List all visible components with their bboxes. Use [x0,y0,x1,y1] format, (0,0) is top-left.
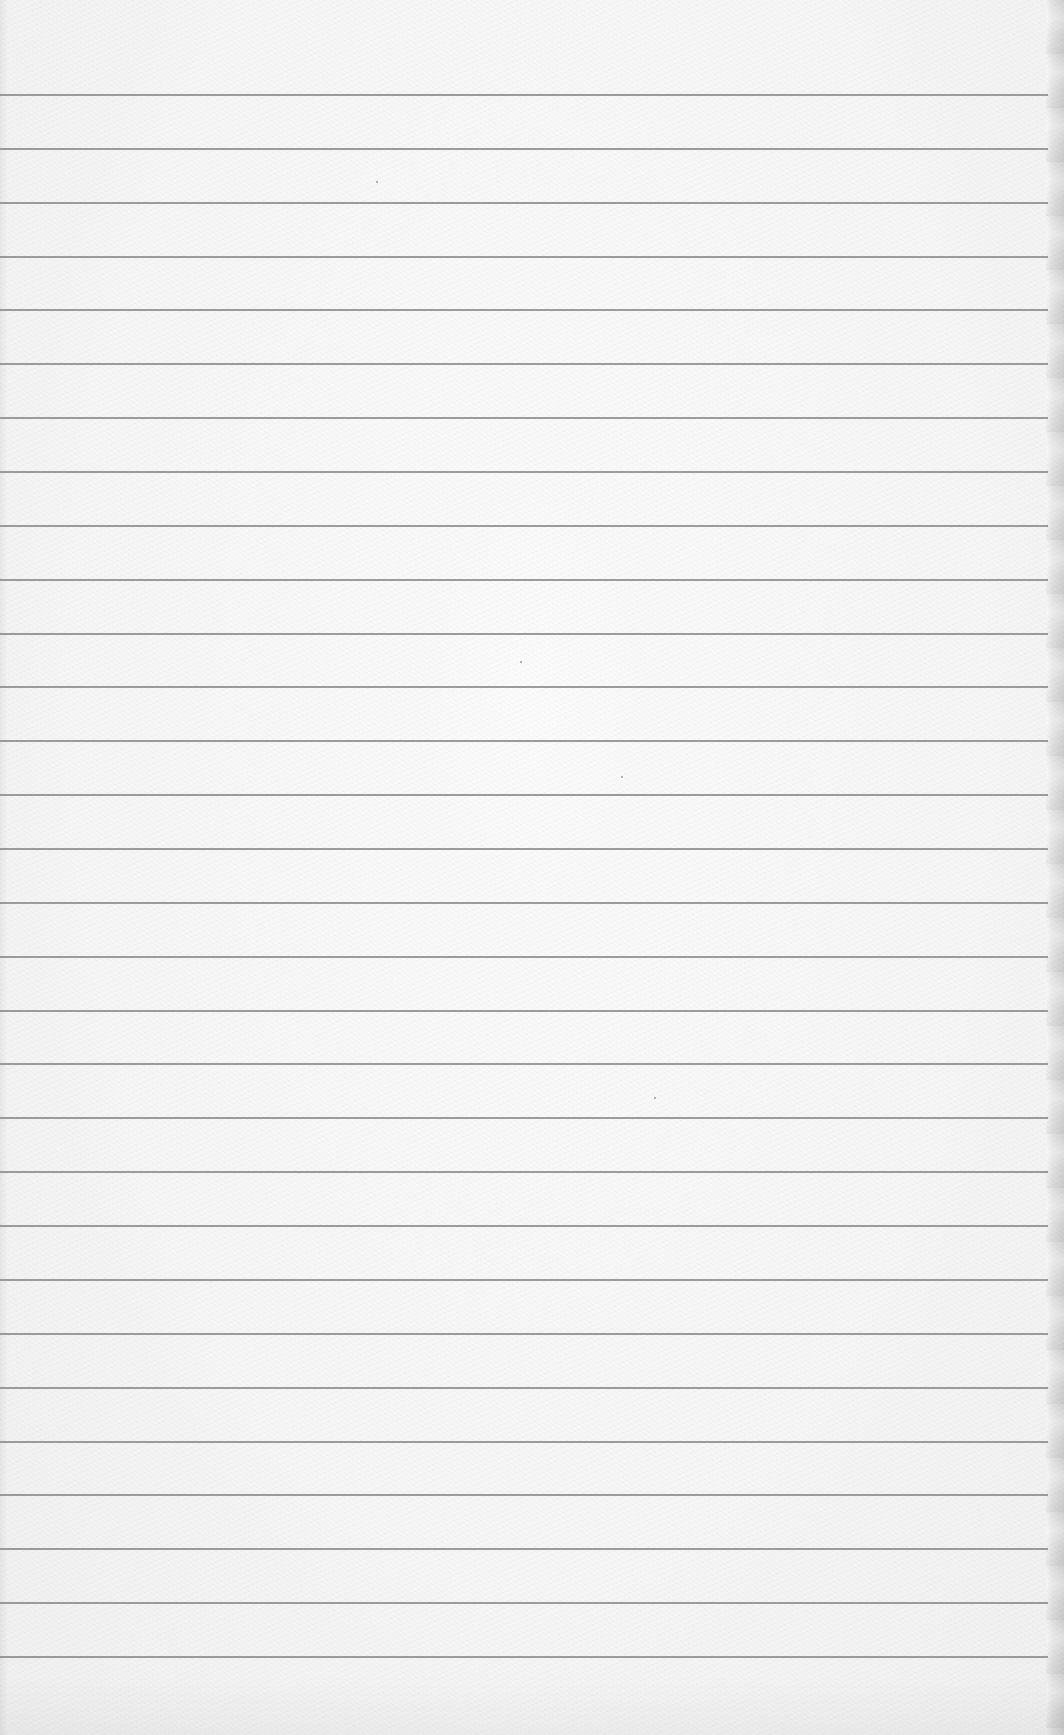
ruled-line [0,848,1048,850]
ruled-line [0,902,1048,904]
ruled-line [0,94,1048,96]
ruled-line [0,686,1048,688]
ruled-line [0,363,1048,365]
ruled-line [0,1010,1048,1012]
right-edge-binding-shadow [1046,0,1064,1735]
ruled-line [0,309,1048,311]
ruled-line [0,1387,1048,1389]
ruled-line [0,1548,1048,1550]
ruled-line [0,1063,1048,1065]
ruled-line [0,1494,1048,1496]
ruled-line [0,956,1048,958]
ruled-line [0,1656,1048,1658]
ruled-line [0,1333,1048,1335]
ruled-line [0,1441,1048,1443]
ruled-line [0,148,1048,150]
ruled-line [0,525,1048,527]
paper-speck [621,776,623,778]
ruled-line [0,1117,1048,1119]
paper-speck [520,661,522,663]
ruled-line [0,740,1048,742]
ruled-lines [0,0,1048,1735]
lined-paper-sheet [0,0,1064,1735]
ruled-line [0,1279,1048,1281]
ruled-line [0,256,1048,258]
ruled-line [0,471,1048,473]
ruled-line [0,579,1048,581]
paper-speck [376,181,378,183]
ruled-line [0,1602,1048,1604]
bottom-edge-shadow [0,1675,1064,1735]
ruled-line [0,1171,1048,1173]
ruled-line [0,633,1048,635]
paper-speck [654,1097,656,1099]
ruled-line [0,794,1048,796]
ruled-line [0,1225,1048,1227]
ruled-line [0,202,1048,204]
ruled-line [0,417,1048,419]
